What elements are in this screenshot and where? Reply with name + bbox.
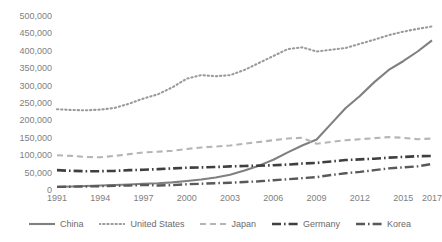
legend-label: China [60,219,84,229]
y-tick-label: 250,000 [0,98,52,108]
y-tick-label: 300,000 [0,81,52,91]
solid-line-swatch [29,219,55,229]
x-tick-label: 2006 [263,192,283,204]
legend-item-china[interactable]: China [29,219,84,229]
y-tick-label: 100,000 [0,150,52,160]
series-container [57,16,432,190]
plot-area [57,16,432,190]
legend-label: Germany [303,219,340,229]
y-tick-label: 200,000 [0,115,52,125]
dashdot-line-swatch [356,219,382,229]
x-axis: 1991199419972000200320062009201220152017 [57,192,432,206]
dashdot-thick-line-swatch [272,219,298,229]
legend-label: Korea [387,219,411,229]
x-tick-label: 2017 [422,192,442,204]
series-line-japan [57,137,432,157]
x-tick-label: 1991 [47,192,67,204]
legend-label: United States [130,219,184,229]
x-tick-label: 2003 [220,192,240,204]
y-tick-label: 450,000 [0,28,52,38]
series-line-united-states [57,26,432,110]
x-tick-label: 1994 [90,192,110,204]
x-tick-label: 1997 [134,192,154,204]
y-tick-label: 350,000 [0,63,52,73]
x-tick-label: 2015 [393,192,413,204]
chart-legend: ChinaUnited StatesJapanGermanyKorea [0,214,440,234]
x-tick-label: 2009 [307,192,327,204]
legend-item-korea[interactable]: Korea [356,219,411,229]
dashed-line-swatch [200,219,226,229]
dotted-line-swatch [99,219,125,229]
legend-label: Japan [231,219,256,229]
y-tick-label: 400,000 [0,46,52,56]
y-axis: 500,000450,000400,000350,000300,000250,0… [0,0,52,190]
legend-item-united-states[interactable]: United States [99,219,184,229]
legend-item-japan[interactable]: Japan [200,219,256,229]
x-tick-label: 2000 [177,192,197,204]
y-tick-label: 50,000 [0,168,52,178]
y-tick-label: 500,000 [0,11,52,21]
series-line-korea [57,164,432,187]
y-tick-label: 0 [0,185,52,195]
legend-item-germany[interactable]: Germany [272,219,340,229]
x-tick-label: 2012 [350,192,370,204]
y-tick-label: 150,000 [0,133,52,143]
